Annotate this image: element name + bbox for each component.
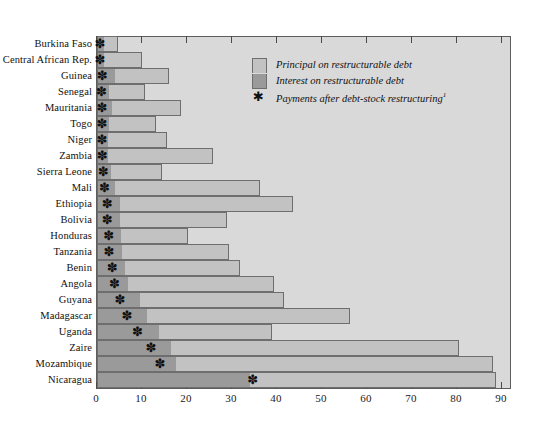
x-tick-label: 0 — [81, 392, 111, 404]
category-label: Mozambique — [36, 358, 92, 369]
asterisk-icon: ✱ — [253, 89, 264, 105]
bar-row: Bolivia✽ — [0, 212, 539, 228]
bar-row: Benin✽ — [0, 260, 539, 276]
bar-row: Zambia✽ — [0, 148, 539, 164]
category-label: Senegal — [58, 86, 92, 97]
legend-item-principal: Principal on restructurable debt — [252, 58, 492, 73]
payment-marker-asterisk-icon: ✽ — [154, 356, 165, 372]
category-label: Central African Rep. — [3, 54, 92, 65]
category-label: Nicaragua — [48, 374, 92, 385]
x-tick-label: 20 — [171, 392, 201, 404]
legend-label-principal: Principal on restructurable debt — [276, 59, 412, 70]
stacked-bar — [97, 324, 272, 340]
bar-segment-principal — [104, 52, 142, 68]
legend-label-payments-text: Payments after debt-stock restructuring — [276, 93, 443, 104]
bar-row: Togo✽ — [0, 116, 539, 132]
bar-row: Burkina Faso✽ — [0, 36, 539, 52]
x-tick-label: 90 — [486, 392, 516, 404]
bar-segment-principal — [128, 276, 274, 292]
bar-row: Nicaragua✽ — [0, 372, 539, 388]
payment-marker-asterisk-icon: ✽ — [109, 276, 120, 292]
payment-marker-asterisk-icon: ✽ — [99, 180, 110, 196]
stacked-bar — [97, 132, 167, 148]
stacked-bar — [97, 196, 293, 212]
legend-swatch-interest-icon — [252, 74, 267, 89]
bar-row: Zaire✽ — [0, 340, 539, 356]
bar-segment-principal — [120, 196, 293, 212]
stacked-bar — [97, 180, 260, 196]
payment-marker-asterisk-icon: ✽ — [95, 52, 106, 68]
stacked-bar — [97, 276, 274, 292]
bar-segment-principal — [125, 260, 240, 276]
bar-row: Mali✽ — [0, 180, 539, 196]
category-label: Zambia — [59, 150, 92, 161]
bar-segment-principal — [104, 36, 118, 52]
category-label: Angola — [60, 278, 92, 289]
payment-marker-asterisk-icon: ✽ — [107, 260, 118, 276]
payment-marker-asterisk-icon: ✽ — [102, 212, 113, 228]
bar-row: Tanzania✽ — [0, 244, 539, 260]
legend-label-payments: Payments after debt-stock restructuring1 — [276, 91, 446, 104]
payment-marker-asterisk-icon: ✽ — [122, 308, 133, 324]
bar-segment-interest — [97, 324, 159, 340]
stacked-bar — [97, 68, 169, 84]
bar-row: Sierra Leone✽ — [0, 164, 539, 180]
bar-row: Angola✽ — [0, 276, 539, 292]
stacked-bar — [97, 372, 496, 388]
bar-segment-principal — [112, 100, 180, 116]
payment-marker-asterisk-icon: ✽ — [97, 68, 108, 84]
payment-marker-asterisk-icon: ✽ — [96, 84, 107, 100]
payment-marker-asterisk-icon: ✽ — [95, 36, 106, 52]
category-label: Honduras — [50, 230, 92, 241]
bar-segment-principal — [115, 68, 169, 84]
payment-marker-asterisk-icon: ✽ — [247, 372, 258, 388]
bar-segment-principal — [159, 324, 272, 340]
bar-row: Madagascar✽ — [0, 308, 539, 324]
payment-marker-asterisk-icon: ✽ — [114, 292, 125, 308]
bar-segment-principal — [121, 228, 188, 244]
legend-footnote-marker: 1 — [443, 91, 447, 99]
bar-segment-principal — [147, 308, 350, 324]
payment-marker-asterisk-icon: ✽ — [97, 148, 108, 164]
x-tick-label: 60 — [351, 392, 381, 404]
stacked-bar — [97, 260, 240, 276]
legend-swatch-principal-icon — [252, 58, 267, 73]
stacked-bar — [97, 308, 350, 324]
category-label: Mali — [72, 182, 92, 193]
bar-segment-principal — [108, 148, 213, 164]
x-tick-label: 50 — [306, 392, 336, 404]
bar-segment-principal — [108, 132, 167, 148]
category-label: Burkina Faso — [35, 38, 93, 49]
payment-marker-asterisk-icon: ✽ — [102, 196, 113, 212]
bar-segment-principal — [171, 340, 459, 356]
category-label: Madagascar — [40, 310, 92, 321]
payment-marker-asterisk-icon: ✽ — [96, 116, 107, 132]
category-label: Togo — [70, 118, 92, 129]
bar-segment-interest — [97, 372, 250, 388]
category-label: Bolivia — [60, 214, 92, 225]
stacked-bar — [97, 100, 181, 116]
category-label: Zaire — [69, 342, 92, 353]
x-tick-label: 30 — [216, 392, 246, 404]
payment-marker-asterisk-icon: ✽ — [132, 324, 143, 340]
stacked-bar — [97, 148, 213, 164]
bar-segment-principal — [176, 356, 493, 372]
bar-row: Ethiopia✽ — [0, 196, 539, 212]
legend-label-interest: Interest on restructurable debt — [276, 75, 404, 86]
payment-marker-asterisk-icon: ✽ — [145, 340, 156, 356]
legend-item-interest: Interest on restructurable debt — [252, 74, 492, 89]
bar-segment-principal — [140, 292, 284, 308]
category-label: Mauritania — [45, 102, 92, 113]
x-tick-label: 10 — [126, 392, 156, 404]
category-label: Sierra Leone — [37, 166, 92, 177]
stacked-bar — [97, 244, 229, 260]
category-label: Uganda — [59, 326, 92, 337]
category-label: Guyana — [59, 294, 92, 305]
bar-segment-principal — [115, 180, 260, 196]
bar-row: Uganda✽ — [0, 324, 539, 340]
bar-segment-interest — [97, 340, 171, 356]
bar-segment-principal — [122, 244, 229, 260]
category-label: Ethiopia — [56, 198, 92, 209]
payment-marker-asterisk-icon: ✽ — [104, 244, 115, 260]
category-label: Niger — [68, 134, 92, 145]
